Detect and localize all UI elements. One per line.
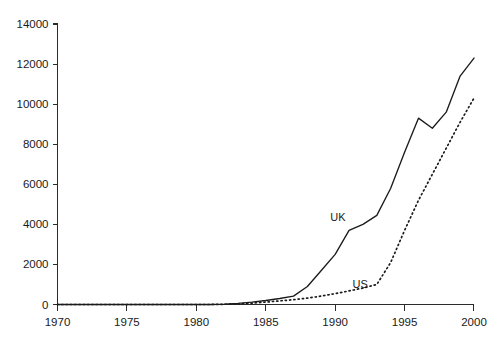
x-tick-label: 1990 xyxy=(322,316,348,328)
x-tick-label: 1975 xyxy=(114,316,140,328)
x-tick-label: 1980 xyxy=(184,316,210,328)
series-label-us: US xyxy=(353,278,368,290)
series-label-group: UKUS xyxy=(330,211,367,290)
y-tick-label: 0 xyxy=(42,299,48,311)
y-tick-label: 14000 xyxy=(17,18,49,30)
y-tick-label: 12000 xyxy=(17,58,49,70)
y-axis-tick-group: 02000400060008000100001200014000 xyxy=(17,18,58,311)
chart-canvas: 02000400060008000100001200014000 1970197… xyxy=(0,0,501,346)
x-axis-tick-group: 1970197519801985199019952000 xyxy=(45,305,487,328)
series-group xyxy=(58,58,475,304)
x-tick-label: 1995 xyxy=(392,316,418,328)
y-tick-label: 4000 xyxy=(23,218,49,230)
series-line-uk xyxy=(58,58,475,304)
x-tick-label: 1970 xyxy=(45,316,71,328)
x-tick-label: 2000 xyxy=(461,316,487,328)
line-chart: 02000400060008000100001200014000 1970197… xyxy=(0,0,501,346)
y-tick-label: 8000 xyxy=(23,138,49,150)
y-tick-label: 6000 xyxy=(23,178,49,190)
series-label-uk: UK xyxy=(330,211,346,223)
x-tick-label: 1985 xyxy=(253,316,279,328)
y-tick-label: 10000 xyxy=(17,98,49,110)
y-tick-label: 2000 xyxy=(23,258,49,270)
series-line-us xyxy=(58,98,475,304)
